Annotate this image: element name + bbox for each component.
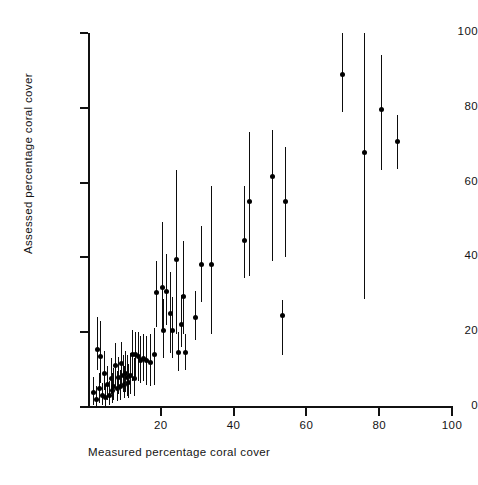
error-bar [211, 186, 212, 334]
data-point [164, 289, 169, 294]
y-tick-60 [80, 182, 88, 184]
error-bar [272, 130, 273, 261]
error-bar [381, 55, 382, 169]
data-point [176, 350, 181, 355]
data-point [379, 107, 384, 112]
x-tick-label-60: 60 [286, 419, 326, 431]
data-point [247, 199, 252, 204]
x-tick-label-100: 100 [432, 419, 472, 431]
y-tick-100 [80, 32, 88, 34]
plot-area [88, 33, 452, 407]
data-point [362, 150, 367, 155]
error-bar [97, 317, 98, 369]
error-bar [282, 300, 283, 354]
data-point [283, 199, 288, 204]
x-tick-label-80: 80 [359, 419, 399, 431]
x-tick-100 [451, 408, 453, 416]
y-axis-title: Assessed percentage coral cover [22, 94, 34, 254]
data-point [102, 371, 107, 376]
x-tick-80 [378, 408, 380, 416]
error-bar [249, 132, 250, 276]
data-point [148, 360, 153, 365]
error-bar [183, 241, 184, 335]
data-point [209, 262, 214, 267]
data-point [154, 290, 159, 295]
data-point [152, 352, 157, 357]
data-point [270, 174, 275, 179]
coral-cover-scatter-figure: 020406080100 20406080100 Assessed percen… [0, 0, 478, 485]
x-tick-20 [160, 408, 162, 416]
data-point [242, 238, 247, 243]
y-tick-0 [80, 406, 88, 408]
data-point [193, 315, 198, 320]
error-bar [181, 295, 182, 347]
y-tick-80 [80, 107, 88, 109]
data-point [170, 328, 175, 333]
x-tick-label-40: 40 [214, 419, 254, 431]
x-tick-label-20: 20 [141, 419, 181, 431]
data-point [174, 257, 179, 262]
y-tick-40 [80, 256, 88, 258]
data-point [181, 294, 186, 299]
error-bar [364, 33, 365, 299]
data-point [199, 262, 204, 267]
error-bar [176, 170, 177, 335]
y-tick-20 [80, 331, 88, 333]
x-tick-60 [305, 408, 307, 416]
x-tick-40 [233, 408, 235, 416]
data-point [280, 313, 285, 318]
error-bar [244, 186, 245, 278]
data-point [98, 354, 103, 359]
data-point [395, 139, 400, 144]
data-point [161, 328, 166, 333]
data-point [340, 72, 345, 77]
data-point [183, 350, 188, 355]
x-axis-title: Measured percentage coral cover [88, 446, 270, 458]
